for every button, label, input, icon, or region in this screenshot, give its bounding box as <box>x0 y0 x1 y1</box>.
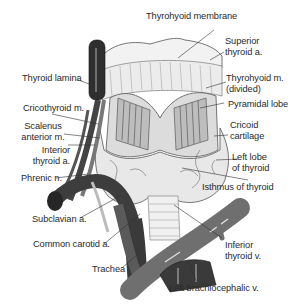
label-cricothyroid-muscle: Cricothyroid m. <box>23 103 84 114</box>
label-common-carotid-artery: Common carotid a. <box>33 239 110 250</box>
label-line: Scalenus <box>20 121 66 132</box>
label-phrenic-nerve: Phrenic n. <box>21 173 62 184</box>
label-thyrohyoid-muscle: Thyrohyoid m. (divided) <box>226 73 284 95</box>
label-line: thyroid a. <box>225 47 262 58</box>
label-line: Inferior <box>225 240 261 251</box>
label-line: thyroid a. <box>30 156 70 167</box>
label-line: cartilage <box>230 131 264 142</box>
label-superior-thyroid-artery: Superior thyroid a. <box>225 36 262 58</box>
label-left-lobe-of-thyroid: Left lobe of thyroid <box>232 152 269 174</box>
label-left-brachiocephalic-vein: Left brachiocephalic v. <box>169 283 259 294</box>
label-pyramidal-lobe: Pyramidal lobe <box>228 99 288 110</box>
label-line: of thyroid <box>232 163 269 174</box>
label-trachea: Trachea <box>92 264 125 275</box>
label-isthmus-of-thyroid: Isthmus of thyroid <box>202 182 274 193</box>
label-inferior-thyroid-artery: Interior thyroid a. <box>30 145 70 167</box>
label-line: Cricoid <box>230 120 264 131</box>
label-subclavian-artery: Subclavian a. <box>32 214 87 225</box>
label-thyroid-lamina: Thyroid lamina <box>22 73 82 84</box>
label-line: Left lobe <box>232 152 269 163</box>
label-scalenus-anterior-muscle: Scalenus anterior m. <box>20 121 66 143</box>
label-thyrohyoid-membrane: Thyrohyoid membrane <box>146 11 237 22</box>
thyroid-anatomy-figure: Thyrohyoid membrane Superior thyroid a. … <box>0 0 302 305</box>
label-line: anterior m. <box>20 132 66 143</box>
label-inferior-thyroid-vein: Inferior thyroid v. <box>225 240 261 262</box>
label-cricoid-cartilage: Cricoid cartilage <box>230 120 264 142</box>
label-line: Superior <box>225 36 262 47</box>
label-line: Interior <box>30 145 70 156</box>
label-line: Thyrohyoid m. <box>226 73 284 84</box>
label-line: (divided) <box>226 84 284 95</box>
label-line: thyroid v. <box>225 251 261 262</box>
